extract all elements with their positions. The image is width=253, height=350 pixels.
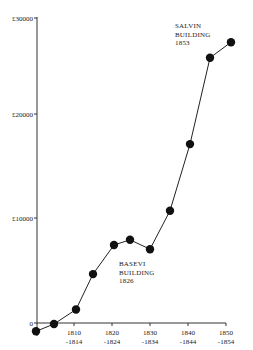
data-point-marker	[110, 241, 118, 249]
y-tick-label: 0	[30, 320, 34, 328]
x-tick-label: -1844	[180, 338, 197, 346]
annotation-label: 1853	[175, 39, 190, 47]
x-tick-label: 1830	[143, 329, 158, 337]
x-tick-label: 1810	[67, 329, 82, 337]
y-tick-label: £20000	[12, 111, 34, 119]
data-point-marker	[166, 207, 174, 215]
x-tick-label: 1820	[105, 329, 120, 337]
y-tick-label: £10000	[12, 215, 34, 223]
data-point-marker	[32, 327, 40, 335]
annotation-label: 1826	[119, 277, 134, 285]
data-point-marker	[146, 245, 154, 253]
x-tick-label: -1814	[66, 338, 83, 346]
x-tick-label: -1834	[142, 338, 159, 346]
y-tick-label: £30000	[12, 15, 34, 23]
line-chart: £30000£20000£100000 1810-18141820-182418…	[0, 0, 253, 350]
data-point-marker	[186, 140, 194, 148]
x-axis-ticks: 1810-18141820-18241830-18341840-18441850…	[66, 323, 235, 346]
data-point-marker	[206, 54, 214, 62]
data-point-marker	[72, 305, 80, 313]
data-point-marker	[126, 236, 134, 244]
data-point-marker	[227, 38, 235, 46]
x-tick-label: -1854	[218, 338, 235, 346]
annotation-label: BUILDING	[119, 269, 154, 277]
x-tick-label: 1850	[219, 329, 234, 337]
y-axis-ticks: £30000£20000£100000	[12, 15, 37, 328]
data-series	[32, 38, 235, 335]
annotation-label: SALVIN	[175, 22, 201, 30]
annotation-label: BUILDING	[175, 31, 210, 39]
annotations: SALVINBUILDING1853BASEVIBUILDING1826	[119, 22, 210, 285]
x-tick-label: -1824	[104, 338, 121, 346]
data-point-marker	[89, 270, 97, 278]
annotation-label: BASEVI	[119, 260, 146, 268]
data-point-marker	[50, 320, 58, 328]
series-line	[36, 42, 231, 331]
x-tick-label: 1840	[181, 329, 196, 337]
